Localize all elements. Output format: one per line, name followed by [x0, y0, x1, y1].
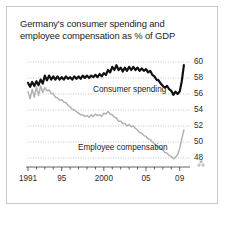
y-axis-tick-label: 52: [194, 121, 210, 130]
series-label-employee-compensation: Employee compensation: [78, 143, 168, 152]
y-axis-tick-label: 54: [194, 105, 210, 114]
series-label-consumer-spending: Consumer spending: [93, 85, 166, 94]
x-axis-tick-label: 95: [45, 174, 79, 183]
x-axis: [26, 167, 190, 171]
x-axis-tick-label: 1991: [11, 174, 45, 183]
x-axis-tick-label: 05: [129, 174, 163, 183]
x-axis-tick-label: 09: [163, 174, 197, 183]
y-axis-tick-label: 58: [194, 73, 210, 82]
y-axis-tick-label: 60: [194, 57, 210, 66]
y-axis-tick-label: 50: [194, 137, 210, 146]
y-axis-tick-label: 56: [194, 89, 210, 98]
axis-ornament-icon: ⁂: [197, 160, 205, 169]
x-axis-tick-label: 2000: [87, 174, 121, 183]
